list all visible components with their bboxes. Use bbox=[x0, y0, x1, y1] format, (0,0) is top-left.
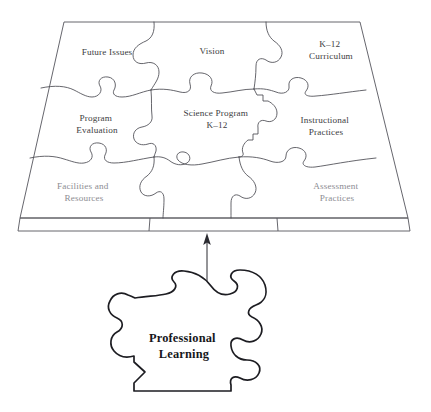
professional-learning-piece: Professional Learning bbox=[108, 270, 266, 391]
piece-label-program-evaluation: Program Evaluation bbox=[76, 113, 118, 135]
puzzle-diagram: Future Issues Vision K–12 Curriculum Pro… bbox=[0, 0, 431, 412]
piece-label-future-issues: Future Issues bbox=[82, 47, 133, 57]
puzzle-diagram-canvas: Future Issues Vision K–12 Curriculum Pro… bbox=[0, 0, 431, 412]
platform-front-lip bbox=[18, 218, 410, 231]
piece-label-assessment-practices: Assessment Practices bbox=[313, 181, 360, 203]
professional-learning-label: Professional Learning bbox=[149, 331, 219, 361]
piece-label-facilities-and-resources: Facilities and Resources bbox=[57, 181, 111, 203]
piece-label-vision: Vision bbox=[200, 46, 225, 56]
